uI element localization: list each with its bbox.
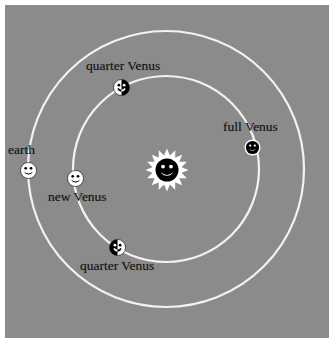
venus-new-icon — [67, 170, 84, 187]
figure-canvas: quarter Venus full Venus earth new Venus… — [0, 0, 329, 338]
label-earth: earth — [8, 143, 35, 157]
label-full-venus: full Venus — [223, 120, 278, 134]
venus-full-icon — [244, 139, 261, 156]
earth-smiley-icon — [20, 162, 37, 179]
label-quarter-venus-bottom: quarter Venus — [80, 259, 154, 273]
label-quarter-venus-top: quarter Venus — [86, 59, 160, 73]
sun-smiley-icon — [145, 148, 189, 192]
venus-quarter-icon — [109, 239, 126, 256]
venus-quarter-icon — [113, 79, 130, 96]
label-new-venus: new Venus — [48, 190, 107, 204]
